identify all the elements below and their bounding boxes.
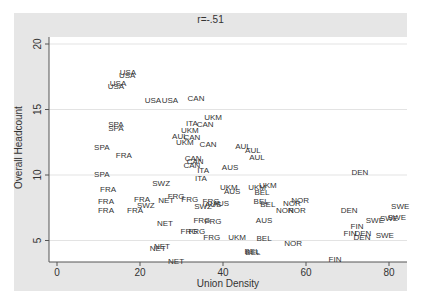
point-label: FIN — [329, 255, 342, 264]
x-tick-label: 60 — [300, 267, 312, 278]
point-label: FRG — [203, 233, 220, 242]
point-label: NET — [157, 219, 173, 228]
point-label: DEN — [341, 206, 358, 215]
point-label: BEL — [245, 248, 261, 257]
point-label: NET — [154, 242, 170, 251]
point-label: AUS — [256, 216, 272, 225]
y-tick-label: 20 — [32, 38, 43, 50]
point-label: USA — [108, 82, 125, 91]
point-label: SWZ — [137, 201, 155, 210]
point-label: NET — [158, 196, 174, 205]
point-label: SWZ — [152, 179, 170, 188]
point-label: USA — [162, 96, 179, 105]
point-label: SWE — [391, 202, 409, 211]
point-label: FRA — [98, 197, 115, 206]
point-label: USA — [145, 96, 162, 105]
point-label: DEN — [352, 168, 369, 177]
point-label: BEL — [257, 234, 273, 243]
point-label: SPA — [94, 170, 110, 179]
point-label: CAN — [200, 140, 217, 149]
point-label: BEL — [260, 200, 276, 209]
point-label: SWE — [376, 231, 394, 240]
point-label: DEN — [354, 229, 371, 238]
y-tick-label: 5 — [32, 237, 43, 243]
point-label: NET — [168, 257, 184, 266]
point-label: NOR — [288, 206, 306, 215]
point-label: AUS — [224, 187, 240, 196]
point-label: ITA — [195, 174, 208, 183]
x-tick-label: 0 — [54, 267, 60, 278]
point-label: BEL — [254, 188, 270, 197]
point-label: FRA — [100, 185, 117, 194]
point-label: AUS — [222, 163, 238, 172]
point-label: UKM — [228, 233, 246, 242]
point-label: CAN — [188, 94, 205, 103]
point-label: UKM — [176, 138, 194, 147]
point-label: SWE — [388, 213, 406, 222]
y-tick-label: 15 — [32, 104, 43, 116]
x-tick-label: 80 — [383, 267, 395, 278]
point-label: FRA — [98, 206, 115, 215]
point-label: SPA — [108, 124, 124, 133]
point-label: FRA — [116, 151, 133, 160]
point-label: SPA — [94, 143, 110, 152]
point-label: AUS — [213, 199, 229, 208]
point-label: FRG — [205, 217, 222, 226]
x-tick-label: 40 — [217, 267, 229, 278]
point-label: CAN — [197, 120, 214, 129]
y-tick-label: 10 — [32, 169, 43, 181]
point-label: AUL — [249, 153, 265, 162]
scatter-plot: 0204060805101520 USAUSAUSAUSAUSAUSACANUK… — [0, 0, 433, 307]
point-label: NOR — [284, 239, 302, 248]
x-tick-label: 20 — [134, 267, 146, 278]
